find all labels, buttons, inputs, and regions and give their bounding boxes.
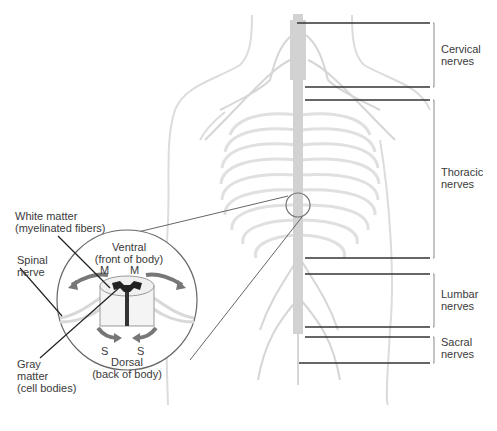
label-motor-right: M: [130, 264, 139, 276]
label-dorsal: Dorsal (back of body): [80, 356, 174, 380]
region-leader-lines: [297, 23, 430, 363]
label-cervical-nerves: Cervical nerves: [441, 43, 481, 67]
region-brackets: [433, 23, 434, 363]
label-spinal-nerve: Spinal nerve: [17, 254, 48, 278]
label-thoracic-nerves: Thoracic nerves: [441, 166, 483, 190]
label-ventral: Ventral (front of body): [82, 241, 176, 265]
label-sacral-nerves: Sacral nerves: [441, 336, 474, 360]
label-white-matter: White matter (myelinated fibers): [15, 210, 105, 234]
cord-cross-section: [100, 276, 154, 326]
label-lumbar-nerves: Lumbar nerves: [441, 288, 478, 312]
label-gray-matter: Gray matter (cell bodies): [17, 358, 76, 394]
label-motor-left: M: [100, 264, 109, 276]
